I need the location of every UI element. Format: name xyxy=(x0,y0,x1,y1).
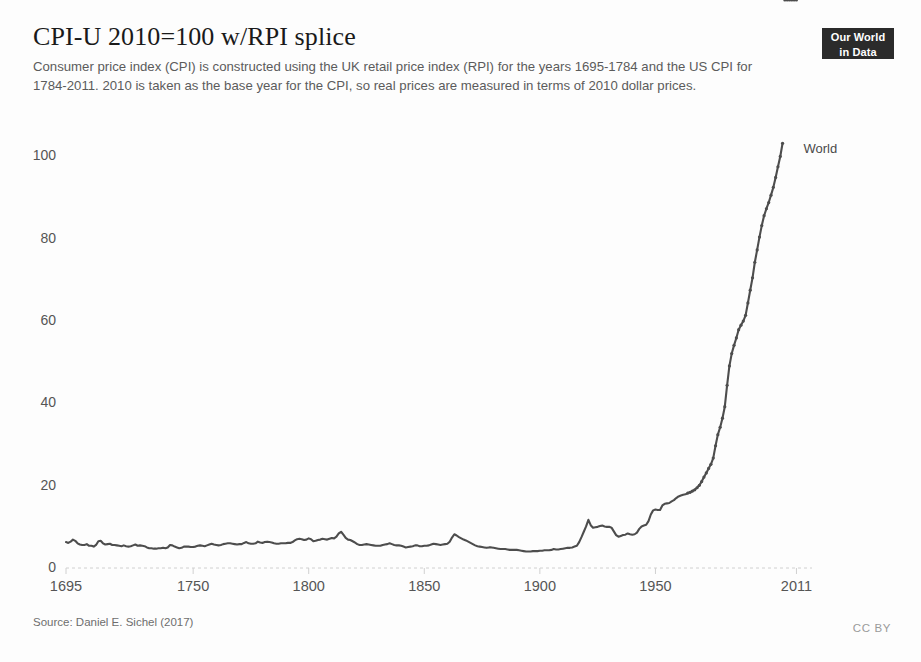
data-point-marker xyxy=(695,486,698,489)
data-point-marker xyxy=(730,352,733,355)
data-point-marker xyxy=(721,417,724,420)
data-point-marker xyxy=(749,289,752,292)
data-point-marker xyxy=(776,165,779,168)
data-point-marker xyxy=(698,484,701,487)
data-point-marker xyxy=(753,261,756,264)
source-note: Source: Daniel E. Sichel (2017) xyxy=(33,616,193,628)
chart-page: CPI-U 2010=100 w/RPI splice Consumer pri… xyxy=(0,0,921,662)
data-point-marker xyxy=(772,186,775,189)
data-point-marker xyxy=(707,467,710,470)
data-point-marker xyxy=(779,155,782,158)
data-point-marker xyxy=(712,457,715,460)
data-point-marker xyxy=(732,344,735,347)
data-point-marker xyxy=(728,364,731,367)
line-chart xyxy=(0,0,921,662)
data-point-marker xyxy=(739,324,742,327)
data-point-marker xyxy=(795,0,798,2)
data-point-marker xyxy=(726,384,729,387)
data-point-marker xyxy=(781,142,784,145)
data-point-marker xyxy=(774,176,777,179)
data-point-marker xyxy=(705,471,708,474)
license-note: CC BY xyxy=(853,622,891,634)
data-point-marker xyxy=(737,328,740,331)
data-point-marker xyxy=(700,480,703,483)
data-point-marker xyxy=(709,463,712,466)
data-point-marker xyxy=(746,301,749,304)
data-point-marker xyxy=(742,319,745,322)
data-point-marker xyxy=(714,444,717,447)
data-point-marker xyxy=(716,433,719,436)
series-line-world xyxy=(66,143,783,551)
data-point-marker xyxy=(735,336,738,339)
data-point-marker xyxy=(762,214,765,217)
data-point-marker xyxy=(765,207,768,210)
data-point-marker xyxy=(758,236,761,239)
data-point-marker xyxy=(744,314,747,317)
data-point-marker xyxy=(760,224,763,227)
data-point-marker xyxy=(756,248,759,251)
data-point-marker xyxy=(723,405,726,408)
data-point-marker xyxy=(702,475,705,478)
data-point-marker xyxy=(769,194,772,197)
data-point-marker xyxy=(751,276,754,279)
data-point-marker xyxy=(719,426,722,429)
data-point-marker xyxy=(767,201,770,204)
